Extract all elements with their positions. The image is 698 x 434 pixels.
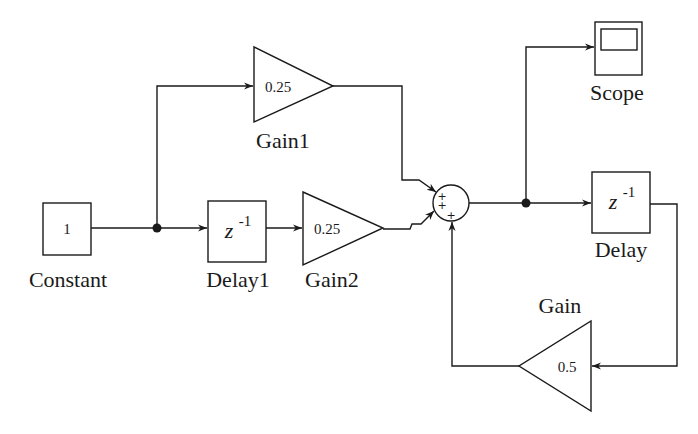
- block-gain2[interactable]: 0.25 Gain2: [303, 192, 383, 292]
- gain-value: 0.5: [558, 359, 577, 375]
- wire-gain-to-sum[interactable]: [452, 222, 519, 366]
- scope-label: Scope: [590, 80, 644, 105]
- wire-junction-to-scope[interactable]: [526, 47, 594, 203]
- branch-point-left: [153, 224, 162, 233]
- branch-point-right: [522, 199, 531, 208]
- delay-box[interactable]: [592, 172, 650, 233]
- block-scope[interactable]: Scope: [590, 22, 644, 105]
- sum-sign-3: +: [446, 209, 455, 222]
- delay1-operator: z: [224, 218, 234, 243]
- sum-sign-2: +: [437, 199, 446, 212]
- block-constant[interactable]: 1 Constant: [29, 203, 107, 292]
- gain2-label: Gain2: [305, 267, 359, 292]
- wire-gain2-to-sum[interactable]: [383, 211, 434, 229]
- block-delay[interactable]: z -1 Delay: [592, 172, 650, 262]
- scope-screen-icon: [601, 29, 637, 50]
- constant-value: 1: [63, 221, 71, 237]
- gain1-value: 0.25: [265, 79, 291, 95]
- constant-label: Constant: [29, 267, 107, 292]
- block-sum[interactable]: + + +: [433, 185, 469, 222]
- gain-triangle[interactable]: [519, 321, 591, 411]
- delay1-box[interactable]: [208, 201, 266, 262]
- wires: [91, 47, 677, 366]
- gain1-label: Gain1: [256, 128, 310, 153]
- block-gain[interactable]: 0.5 Gain: [519, 293, 591, 411]
- delay1-exponent: -1: [239, 213, 252, 229]
- wire-gain1-to-sum[interactable]: [333, 86, 436, 192]
- delay1-label: Delay1: [206, 267, 270, 292]
- delay-label: Delay: [595, 237, 648, 262]
- gain-label: Gain: [539, 293, 582, 318]
- delay-exponent: -1: [623, 184, 636, 200]
- block-gain1[interactable]: 0.25 Gain1: [254, 47, 333, 153]
- gain2-value: 0.25: [314, 221, 340, 237]
- delay-operator: z: [608, 189, 618, 214]
- block-delay1[interactable]: z -1 Delay1: [206, 201, 270, 292]
- block-diagram-canvas: 1 Constant z -1 Delay1 0.25 Gain1 0.25 G…: [0, 0, 698, 434]
